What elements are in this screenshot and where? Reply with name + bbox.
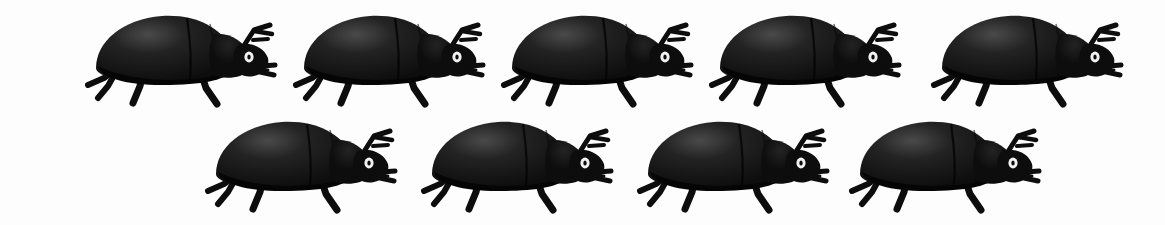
beetle-icon (292, 6, 488, 114)
beetle-icon (848, 112, 1044, 220)
eye-pupil (1011, 160, 1014, 165)
beetle-icon (84, 6, 280, 114)
beetle-icon (500, 6, 696, 114)
antenna (661, 25, 688, 44)
eye-pupil (799, 160, 802, 165)
eye-pupil (871, 54, 874, 59)
antenna (797, 131, 824, 150)
antenna (453, 25, 480, 44)
eye-pupil (1093, 54, 1096, 59)
illustration-canvas: Beetle counting illustration Nine identi… (0, 0, 1165, 225)
antenna (869, 25, 896, 44)
beetle-icon (204, 112, 400, 220)
eye-pupil (367, 160, 370, 165)
antenna (245, 25, 272, 44)
beetle-icon (930, 6, 1126, 114)
eye-pupil (455, 54, 458, 59)
beetle-icon (708, 6, 904, 114)
antenna (581, 131, 608, 150)
antenna (1091, 25, 1118, 44)
antenna (1009, 131, 1036, 150)
beetle-icon (420, 112, 616, 220)
beetle-icon (636, 112, 832, 220)
antenna (365, 131, 392, 150)
eye-pupil (663, 54, 666, 59)
eye-pupil (583, 160, 586, 165)
eye-pupil (247, 54, 250, 59)
